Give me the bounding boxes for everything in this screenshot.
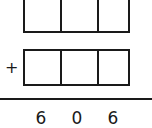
sum-ones-digit: 6 [106, 108, 120, 128]
top-addend-boxes [23, 0, 130, 33]
top-hundreds-box[interactable] [25, 0, 60, 31]
top-ones-box[interactable] [97, 0, 128, 31]
bottom-addend-boxes [23, 49, 130, 86]
bottom-hundreds-box[interactable] [25, 51, 60, 84]
bottom-tens-box[interactable] [60, 51, 97, 84]
sum-hundreds-digit: 6 [34, 108, 48, 128]
bottom-ones-box[interactable] [97, 51, 128, 84]
sum-line [0, 98, 152, 100]
sum-tens-digit: 0 [70, 108, 84, 128]
top-tens-box[interactable] [60, 0, 97, 31]
plus-sign: + [5, 59, 17, 77]
